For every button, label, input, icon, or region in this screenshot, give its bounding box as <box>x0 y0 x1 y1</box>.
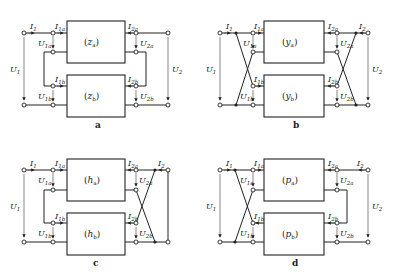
caption-c: c <box>93 258 99 268</box>
label-I1a: I1a <box>253 159 264 169</box>
label-U1b: U1b <box>38 229 52 239</box>
label-U2a: U2a <box>139 176 153 186</box>
label-I2: I2 <box>356 159 364 169</box>
caption-a: a <box>95 120 101 130</box>
label-U2: U2 <box>372 65 383 75</box>
label-I2: I2 <box>358 22 366 32</box>
label-I1: I1 <box>29 22 37 32</box>
label-U2: U2 <box>172 65 183 75</box>
label-I1b: I1b <box>54 75 66 85</box>
label-I2: I2 <box>157 159 165 169</box>
label-U1a: U1a <box>243 39 257 49</box>
panel-d: I1 I1a I1b I2a I2b I2 U1 U1a U1b U2a U2b… <box>206 159 383 268</box>
label-U2a: U2a <box>340 39 354 49</box>
label-I2b: I2b <box>127 212 139 222</box>
label-U2a: U2a <box>140 39 154 49</box>
label-U1b: U1b <box>38 92 52 102</box>
box-label-pb: (pb) <box>282 229 298 240</box>
panel-a: I1 I1a I1b I2a I2b U1 U1a U1b U2a U2b U2… <box>10 21 183 130</box>
label-I1b: I1b <box>54 212 66 222</box>
box-label-zb: (zb) <box>84 91 99 102</box>
label-I1: I1 <box>225 159 233 169</box>
label-U2: U2 <box>372 202 383 212</box>
label-I2b: I2b <box>127 75 139 85</box>
two-port-interconnection-figure: I1 I1a I1b I2a I2b U1 U1a U1b U2a U2b U2… <box>0 0 400 278</box>
box-label-pa: (pa) <box>282 175 298 186</box>
label-U1: U1 <box>206 202 216 212</box>
label-I2a: I2a <box>327 22 338 32</box>
box-label-yb: (yb) <box>282 91 298 102</box>
label-U1a: U1a <box>38 39 52 49</box>
box-label-ya: (ya) <box>282 37 297 48</box>
label-I1a: I1a <box>54 22 65 32</box>
caption-b: b <box>293 120 299 130</box>
label-I2a: I2a <box>127 159 138 169</box>
label-U2a: U2a <box>340 176 354 186</box>
label-I2b: I2b <box>327 212 339 222</box>
panel-b: I1 I1a I1b I2a I2b I2 U1 U1a U1b U2a U2b… <box>206 21 383 130</box>
label-I2b: I2b <box>327 75 339 85</box>
label-I1b: I1b <box>253 212 265 222</box>
label-I1a: I1a <box>54 159 65 169</box>
label-U1a: U1a <box>38 176 52 186</box>
label-I2a: I2a <box>327 159 338 169</box>
label-I1: I1 <box>225 22 233 32</box>
panel-c: I1 I1a I1b I2a I2b I2 U1 U1a U1b U2a U2b… <box>10 159 170 268</box>
label-U1b: U1b <box>240 229 254 239</box>
label-U1: U1 <box>10 65 20 75</box>
label-U2b: U2b <box>340 229 354 239</box>
label-U1b: U1b <box>240 92 254 102</box>
box-label-za: (za) <box>84 37 99 48</box>
box-label-hb: (hb) <box>84 229 100 240</box>
label-I2a: I2a <box>127 22 138 32</box>
label-I1a: I1a <box>253 22 264 32</box>
label-U2b: U2b <box>140 92 154 102</box>
box-label-ha: (ha) <box>84 175 100 186</box>
label-I1b: I1b <box>253 75 265 85</box>
label-U1a: U1a <box>240 176 254 186</box>
caption-d: d <box>292 258 299 268</box>
label-U1: U1 <box>206 65 216 75</box>
label-U1: U1 <box>10 202 20 212</box>
label-I1: I1 <box>29 159 37 169</box>
